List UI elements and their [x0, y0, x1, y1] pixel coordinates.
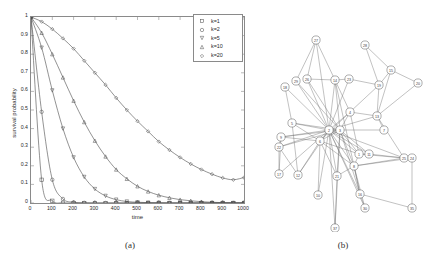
y-tick-label: 0.3 [21, 144, 28, 149]
legend-item-k-2: k=2 [194, 26, 242, 35]
graph-node-37[interactable]: 37 [331, 224, 339, 232]
graph-node-label: 3 [339, 129, 341, 133]
graph-node-label: 1 [358, 153, 360, 157]
graph-node-label: 26 [305, 78, 309, 82]
graph-node-14[interactable]: 14 [331, 76, 339, 84]
graph-node-8[interactable]: 8 [350, 162, 358, 170]
legend-marker-triangle-up-icon [197, 43, 210, 51]
graph-node-16[interactable]: 16 [356, 190, 364, 198]
graph-edge [377, 85, 379, 116]
graph-node-27[interactable]: 27 [312, 36, 320, 44]
chart-legend: k=1k=2k=5k=10k=20 [193, 14, 243, 62]
graph-node-label: 23 [347, 78, 351, 82]
y-tick-label: 0.1 [21, 181, 28, 186]
graph-node-label: 29 [294, 80, 298, 84]
graph-node-15[interactable]: 15 [387, 66, 395, 74]
graph-node-label: 17 [277, 173, 281, 177]
x-tick-label: 200 [68, 206, 77, 211]
graph-node-10[interactable]: 10 [314, 191, 322, 199]
caption-b: (b) [255, 240, 431, 250]
graph-edge [279, 130, 329, 174]
graph-node-label: 6 [319, 140, 321, 144]
graph-edge [365, 45, 379, 85]
graph-node-11[interactable]: 11 [365, 150, 373, 158]
graph-node-label: 14 [333, 79, 337, 83]
graph-node-5[interactable]: 5 [288, 119, 296, 127]
graph-node-20[interactable]: 20 [414, 79, 422, 87]
graph-node-7[interactable]: 7 [380, 126, 388, 134]
graph-node-label: 20 [416, 82, 420, 86]
graph-node-12[interactable]: 12 [294, 171, 302, 179]
graph-node-26[interactable]: 26 [303, 75, 311, 83]
graph-edge [320, 141, 337, 176]
graph-node-label: 21 [335, 175, 339, 179]
x-tick-label: 300 [90, 206, 99, 211]
legend-label: k=2 [211, 27, 220, 32]
graph-node-25[interactable]: 25 [400, 154, 408, 162]
graph-edge [296, 81, 340, 130]
graph-node-label: 28 [363, 44, 367, 48]
x-tick-label: 700 [175, 206, 184, 211]
graph-edge [377, 116, 404, 158]
graph-node-4[interactable]: 4 [346, 108, 354, 116]
legend-marker-triangle-down-icon [197, 34, 210, 42]
y-tick-label: 0 [25, 199, 28, 204]
x-tick-label: 400 [111, 206, 120, 211]
graph-edge [307, 40, 316, 79]
graph-node-9[interactable]: 9 [277, 133, 285, 141]
graph-node-29[interactable]: 29 [292, 77, 300, 85]
graph-node-label: 15 [389, 69, 393, 73]
panel-b-network-graph: 2726291423281519201859221712413723611182… [255, 8, 431, 232]
legend-marker-square-icon [197, 17, 210, 25]
x-tick-label: 1000 [237, 206, 249, 211]
graph-node-label: 16 [358, 193, 362, 197]
y-tick-label: 0.6 [21, 88, 28, 93]
graph-node-13[interactable]: 13 [373, 112, 381, 120]
y-axis-title: survival probability [11, 63, 17, 163]
graph-node-17[interactable]: 17 [275, 170, 283, 178]
y-tick-label: 0.7 [21, 69, 28, 74]
graph-node-label: 4 [349, 111, 351, 115]
graph-node-35[interactable]: 35 [408, 204, 416, 212]
graph-node-label: 2 [328, 129, 330, 133]
graph-edge [307, 79, 329, 130]
graph-edge [318, 141, 320, 195]
graph-node-label: 27 [314, 39, 318, 43]
graph-node-3[interactable]: 3 [336, 126, 344, 134]
y-tick-label: 1 [25, 13, 28, 18]
graph-node-label: 13 [375, 115, 379, 119]
graph-node-label: 35 [410, 207, 414, 211]
graph-edge [377, 70, 391, 116]
graph-node-18[interactable]: 18 [281, 83, 289, 91]
x-tick-label: 900 [217, 206, 226, 211]
x-tick-label: 600 [153, 206, 162, 211]
network-graph: 2726291423281519201859221712413723611182… [255, 8, 431, 232]
graph-node-label: 8 [353, 165, 355, 169]
graph-edge [365, 45, 391, 70]
graph-node-label: 19 [377, 84, 381, 88]
panel-a-survival-chart: 00.10.20.30.40.50.60.70.80.91 0100200300… [0, 0, 260, 232]
graph-edge [354, 166, 365, 208]
graph-node-2[interactable]: 2 [325, 126, 333, 134]
legend-label: k=10 [211, 44, 223, 49]
graph-edge [281, 137, 320, 141]
graph-node-1[interactable]: 1 [355, 150, 363, 158]
graph-node-19[interactable]: 19 [375, 81, 383, 89]
x-tick-label: 0 [29, 206, 32, 211]
graph-node-label: 12 [296, 174, 300, 178]
graph-node-21[interactable]: 21 [333, 172, 341, 180]
y-tick-label: 0.9 [21, 32, 28, 37]
graph-node-6[interactable]: 6 [316, 137, 324, 145]
graph-node-23[interactable]: 23 [345, 75, 353, 83]
legend-item-k-5: k=5 [194, 34, 242, 43]
graph-node-24[interactable]: 24 [408, 154, 416, 162]
graph-node-label: 11 [367, 153, 371, 157]
graph-node-label: 9 [280, 136, 282, 140]
caption-a: (a) [0, 240, 260, 250]
graph-node-30[interactable]: 30 [361, 204, 369, 212]
graph-node-28[interactable]: 28 [361, 41, 369, 49]
legend-item-k-1: k=1 [194, 17, 242, 26]
graph-node-22[interactable]: 22 [275, 143, 283, 151]
figure-container: 00.10.20.30.40.50.60.70.80.91 0100200300… [0, 0, 431, 265]
graph-node-label: 30 [363, 207, 367, 211]
